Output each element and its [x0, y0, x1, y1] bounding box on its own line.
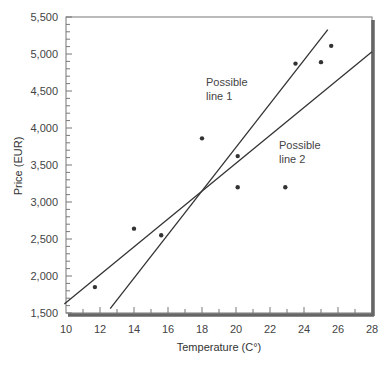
data-point — [329, 44, 333, 48]
y-tick-label: 5,500 — [30, 11, 58, 23]
x-tick-label: 26 — [332, 323, 344, 335]
data-point — [236, 154, 240, 158]
annotation-line-1-l2: line 1 — [206, 90, 232, 102]
x-axis-title: Temperature (C°) — [177, 341, 261, 353]
x-tick-label: 22 — [264, 323, 276, 335]
x-tick-label: 20 — [230, 323, 242, 335]
annotation-line-2-l2: line 2 — [279, 153, 305, 165]
y-tick-label: 4,000 — [30, 122, 58, 134]
data-point — [236, 185, 240, 189]
plot-area — [66, 17, 372, 313]
data-point — [319, 60, 323, 64]
data-point — [93, 285, 97, 289]
y-tick-label: 3,500 — [30, 159, 58, 171]
x-tick-label: 10 — [60, 323, 72, 335]
annotation-line-2-l1: Possible — [279, 139, 321, 151]
x-tick-label: 24 — [298, 323, 310, 335]
data-point — [293, 61, 297, 65]
x-tick-label: 14 — [128, 323, 140, 335]
y-tick-label: 3,000 — [30, 196, 58, 208]
y-tick-label: 1,500 — [30, 307, 58, 319]
x-tick-label: 12 — [94, 323, 106, 335]
data-point — [132, 226, 136, 230]
data-point — [159, 233, 163, 237]
x-tick-label: 18 — [196, 323, 208, 335]
annotation-line-1-l1: Possible — [206, 76, 248, 88]
y-tick-label: 2,500 — [30, 233, 58, 245]
y-axis-title: Price (EUR) — [12, 137, 24, 196]
data-point — [200, 136, 204, 140]
x-tick-label: 16 — [162, 323, 174, 335]
data-point — [283, 185, 287, 189]
scatter-chart: 1,5002,0002,5003,0003,5004,0004,5005,000… — [0, 0, 390, 365]
x-axis-tick-labels: 10121416182022242628 — [60, 323, 378, 335]
y-tick-label: 2,000 — [30, 270, 58, 282]
y-axis-tick-labels: 1,5002,0002,5003,0003,5004,0004,5005,000… — [30, 11, 58, 319]
y-tick-label: 4,500 — [30, 85, 58, 97]
x-tick-label: 28 — [366, 323, 378, 335]
y-tick-label: 5,000 — [30, 48, 58, 60]
